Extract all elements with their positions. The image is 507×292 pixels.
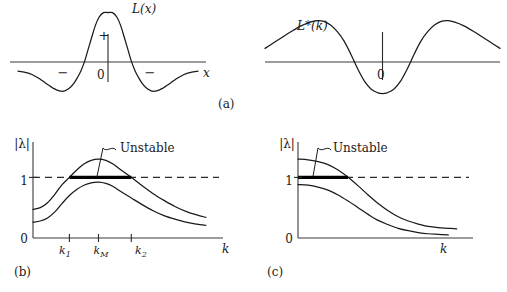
- y-tick-label-zero: 0: [285, 232, 293, 246]
- x-tick-label-k2: k2: [135, 244, 147, 259]
- x-axis-label: k: [440, 242, 447, 256]
- x-tick-label-kM: kM: [94, 244, 110, 259]
- panel-a-right-plot: L*(k) 0: [255, 0, 505, 100]
- unstable-annotation: Unstable: [333, 141, 388, 155]
- figure-root: L(x) 0 + − − x L*(k) 0 (a): [0, 0, 507, 292]
- caption-a: (a): [218, 97, 235, 111]
- y-axis-label: |λ|: [14, 137, 30, 151]
- y-tick-label-one: 1: [20, 174, 28, 188]
- y-tick-label-zero: 0: [20, 232, 28, 246]
- panel-a-right: L*(k) 0: [255, 0, 505, 100]
- panel-c: |λ| 1 0 Unstable k: [255, 130, 505, 265]
- caption-c: (c): [267, 265, 283, 279]
- panel-b-plot: |λ| 1 0 Unstable k k1 kM k2: [0, 130, 250, 265]
- caption-b: (b): [14, 265, 31, 279]
- curve-upper-unstable: [33, 159, 206, 217]
- sign-plus-label: +: [99, 28, 110, 43]
- panel-c-plot: |λ| 1 0 Unstable k: [255, 130, 505, 265]
- origin-label: 0: [377, 68, 385, 82]
- panel-a-left-plot: L(x) 0 + − − x: [0, 0, 240, 100]
- curve-upper-unstable: [298, 159, 457, 229]
- curve-lower-stable: [298, 185, 448, 235]
- curve-label-Lx: L(x): [131, 2, 156, 16]
- sign-minus-right-label: −: [145, 65, 156, 80]
- panel-a-left: L(x) 0 + − − x: [0, 0, 240, 100]
- x-tick-label-k1: k1: [59, 244, 71, 259]
- sign-minus-left-label: −: [58, 65, 69, 80]
- panel-b: |λ| 1 0 Unstable k k1 kM k2: [0, 130, 250, 265]
- unstable-annotation: Unstable: [120, 141, 175, 155]
- origin-label: 0: [97, 68, 105, 82]
- x-axis-label: k: [222, 242, 229, 256]
- curve-label-Lstar-k: L*(k): [296, 19, 328, 33]
- x-axis-label: x: [203, 66, 210, 80]
- unstable-leader-line: [97, 148, 116, 176]
- y-axis-label: |λ|: [279, 137, 295, 151]
- y-tick-label-one: 1: [285, 174, 293, 188]
